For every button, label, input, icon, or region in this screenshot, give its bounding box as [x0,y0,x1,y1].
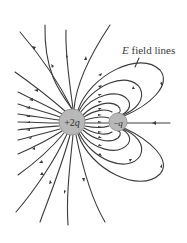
svg-text:−q: −q [113,118,123,128]
positive-charge-var: q [75,117,80,128]
label-rest: field lines [129,44,175,56]
positive-charge: +2q [59,109,85,135]
negative-charge-var: q [118,118,123,128]
svg-text:+2q: +2q [64,117,80,128]
negative-charge: −q [109,113,127,131]
svg-text:E field lines: E field lines [121,44,175,56]
electric-field-diagram: E field lines [0,0,187,243]
positive-charge-sign: +2 [64,117,75,128]
